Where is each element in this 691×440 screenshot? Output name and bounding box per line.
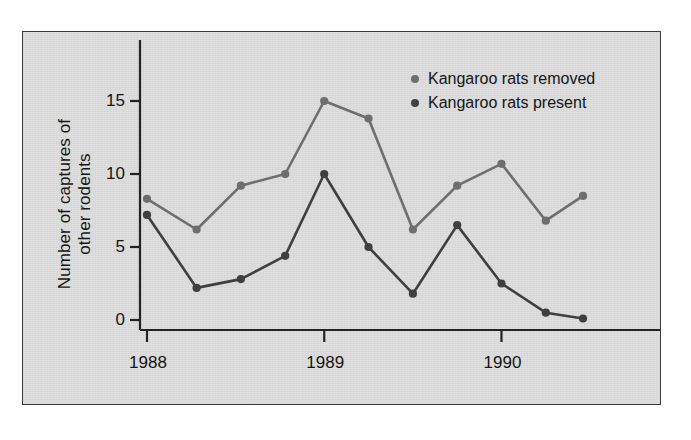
data-point-removed-6 [409, 225, 417, 233]
data-point-removed-2 [237, 182, 245, 190]
data-point-removed-5 [364, 114, 372, 122]
data-point-removed-3 [281, 170, 289, 178]
data-point-present-7 [453, 221, 461, 229]
data-point-present-6 [409, 290, 417, 298]
data-point-removed-8 [497, 160, 505, 168]
data-point-present-1 [193, 284, 201, 292]
data-point-removed-4 [320, 97, 328, 105]
data-point-present-5 [364, 243, 372, 251]
data-point-present-8 [497, 279, 505, 287]
data-point-removed-10 [579, 192, 587, 200]
data-point-present-9 [542, 309, 550, 317]
data-point-present-10 [579, 314, 587, 322]
data-point-removed-9 [542, 217, 550, 225]
data-point-present-2 [237, 275, 245, 283]
data-point-removed-1 [193, 225, 201, 233]
data-point-removed-7 [453, 182, 461, 190]
figure-container: Number of captures of other rodents 15 1… [0, 0, 691, 440]
data-point-removed-0 [143, 195, 151, 203]
data-point-present-3 [281, 252, 289, 260]
plot-area [0, 0, 691, 440]
data-point-present-0 [143, 211, 151, 219]
data-point-present-4 [320, 170, 328, 178]
